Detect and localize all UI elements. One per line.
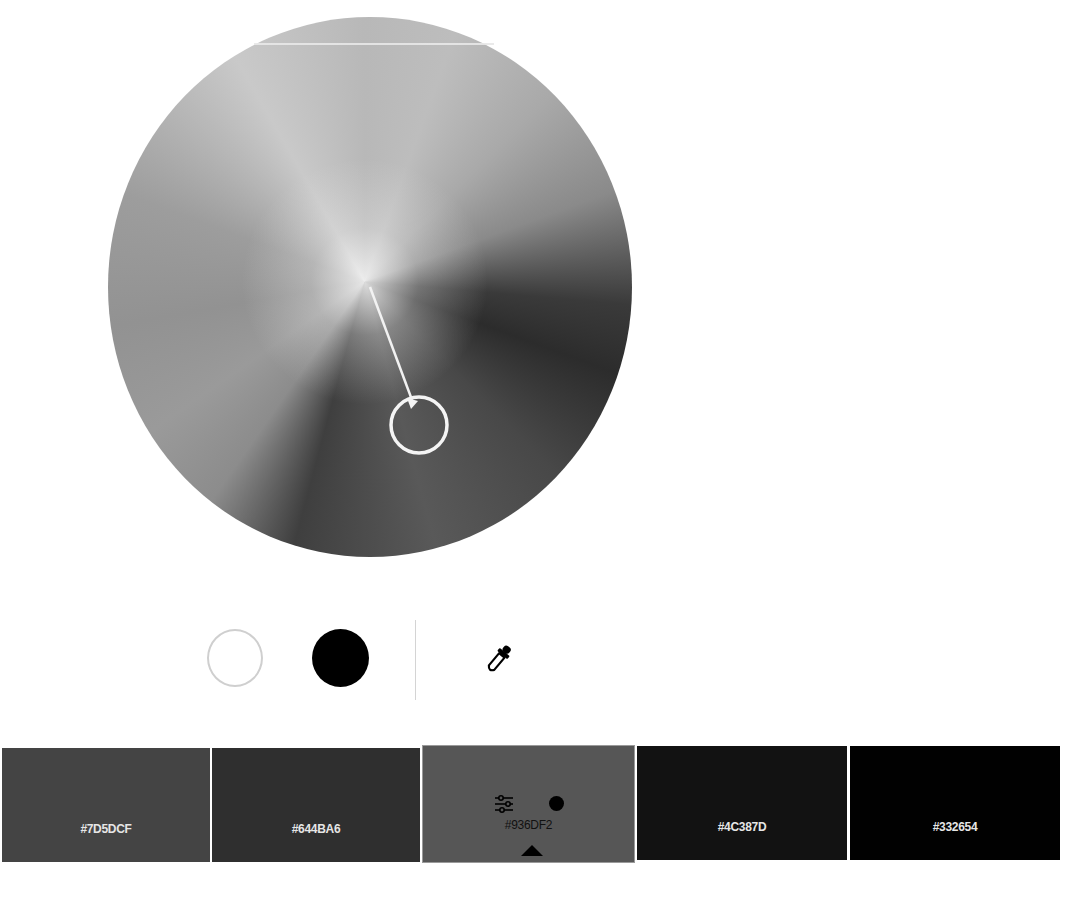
palette-swatches: #7D5DCF #644BA6 #936DF2 #4C387D #332654	[2, 748, 1062, 866]
swatch-hex-label: #936DF2	[423, 818, 634, 832]
white-preset-button[interactable]	[207, 629, 263, 687]
swatch-hex-label: #4C387D	[637, 820, 847, 834]
swatch-actions	[423, 794, 634, 814]
handle-pointer-icon	[407, 398, 418, 409]
eyedropper-icon	[478, 640, 518, 680]
swatch-2[interactable]: #644BA6	[212, 748, 420, 862]
swatch-hex-label: #7D5DCF	[2, 822, 210, 836]
color-wheel[interactable]	[108, 17, 632, 557]
swatch-1[interactable]: #7D5DCF	[2, 748, 210, 862]
base-color-dot-icon[interactable]	[549, 796, 564, 811]
swatch-4[interactable]: #4C387D	[637, 746, 847, 860]
wheel-controls	[0, 620, 1075, 700]
swatch-3-selected[interactable]: #936DF2	[422, 745, 635, 863]
swatch-5[interactable]: #332654	[850, 746, 1060, 860]
selected-indicator-triangle-icon	[521, 845, 543, 856]
swatch-hex-label: #332654	[850, 820, 1060, 834]
adjust-sliders-icon[interactable]	[493, 794, 515, 814]
swatch-hex-label: #644BA6	[212, 822, 420, 836]
color-handle[interactable]	[391, 397, 447, 453]
black-preset-button[interactable]	[312, 629, 369, 687]
controls-divider	[415, 620, 416, 700]
handle-connector-line	[370, 287, 412, 400]
eyedropper-button[interactable]	[478, 640, 518, 680]
wheel-overlay	[108, 17, 632, 557]
